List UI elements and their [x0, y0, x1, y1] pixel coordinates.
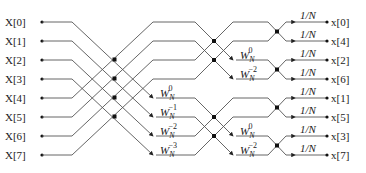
scale-label: 1/N [300, 85, 317, 97]
scale-label: 1/N [300, 104, 317, 116]
scale-labels: 1/N 1/N 1/N 1/N 1/N 1/N 1/N 1/N [300, 9, 317, 154]
stage2-nodes [212, 39, 216, 138]
butterfly-node [275, 144, 279, 148]
input-labels: X[0] X[1] X[2] X[3] X[4] X[5] X[6] X[7] [5, 16, 26, 161]
scale-label: 1/N [300, 9, 317, 21]
scale-label: 1/N [300, 123, 317, 135]
scale-label: 1/N [300, 66, 317, 78]
output-label: x[6] [331, 73, 349, 85]
input-label: X[2] [5, 54, 26, 66]
output-node [325, 115, 328, 118]
output-nodes [325, 20, 328, 156]
input-label: X[3] [5, 73, 26, 85]
stage1-twiddles: WN0 WN−1 WN−2 WN−3 [160, 84, 177, 159]
output-node [325, 153, 328, 156]
butterfly-node [113, 77, 117, 81]
output-labels: x[0] x[4] x[2] x[6] x[1] x[5] x[3] x[7] [331, 16, 349, 161]
output-node [325, 96, 328, 99]
butterfly-node [275, 68, 279, 72]
output-label: x[3] [331, 130, 349, 142]
twiddle-label: WN0 [240, 122, 255, 140]
butterfly-node [275, 106, 279, 110]
twiddle-label: WN−1 [160, 103, 177, 121]
output-node [325, 20, 328, 23]
input-label: X[0] [5, 16, 26, 28]
butterfly-node [212, 134, 216, 138]
butterfly-node [113, 96, 117, 100]
stage3-wires [258, 22, 327, 155]
twiddle-label: WN0 [160, 84, 175, 102]
scale-label: 1/N [300, 47, 317, 59]
scale-label: 1/N [300, 28, 317, 40]
stage3-nodes [275, 30, 279, 148]
output-label: x[7] [331, 149, 349, 161]
twiddle-label: WN0 [240, 46, 255, 64]
output-label: x[0] [331, 16, 349, 28]
input-label: X[6] [5, 130, 26, 142]
butterfly-node [212, 115, 216, 119]
input-label: X[5] [5, 111, 26, 123]
butterfly-node [212, 39, 216, 43]
twiddle-label: WN−2 [240, 65, 257, 83]
stage1-nodes [113, 58, 117, 119]
output-label: x[2] [331, 54, 349, 66]
output-label: x[4] [331, 35, 349, 47]
fft-butterfly-diagram: X[0] X[1] X[2] X[3] X[4] X[5] X[6] X[7] [0, 0, 366, 173]
butterfly-node [275, 30, 279, 34]
twiddle-label: WN−2 [160, 122, 177, 140]
output-label: x[5] [331, 111, 349, 123]
input-label: X[4] [5, 92, 26, 104]
output-node [325, 39, 328, 42]
stage2-twiddles: WN0 WN−2 WN0 WN−2 [240, 46, 257, 159]
output-node [325, 134, 328, 137]
butterfly-node [212, 58, 216, 62]
twiddle-label: WN−3 [160, 141, 177, 159]
butterfly-node [113, 115, 117, 119]
output-label: x[1] [331, 92, 349, 104]
output-node [325, 77, 328, 80]
input-label: X[1] [5, 35, 26, 47]
output-node [325, 58, 328, 61]
twiddle-label: WN−2 [240, 141, 257, 159]
input-label: X[7] [5, 149, 26, 161]
butterfly-node [113, 58, 117, 62]
scale-label: 1/N [300, 142, 317, 154]
